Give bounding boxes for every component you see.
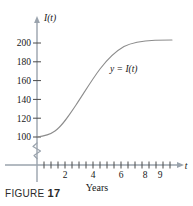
y-axis-name: I(t): [43, 13, 56, 24]
y-tick-label: 180: [17, 57, 32, 67]
y-axis-tick-labels: 200 180 160 140 120 100: [17, 38, 32, 142]
logistic-curve: [37, 40, 172, 137]
x-axis-arrow-icon: [177, 162, 184, 168]
y-tick-label: 140: [17, 95, 32, 105]
x-tick-label: 8: [143, 170, 148, 180]
x-axis: [5, 162, 184, 168]
x-tick-label: 2: [63, 170, 68, 180]
x-tick-label: 4: [91, 170, 96, 180]
x-axis-tick-labels: 2 4 6 8 9: [63, 170, 163, 180]
x-axis-name: t: [185, 161, 188, 171]
graph-canvas: 200 180 160 140 120 100: [0, 0, 193, 206]
y-tick-label: 200: [17, 38, 32, 48]
x-tick-label: 6: [119, 170, 124, 180]
x-axis-title: Years: [86, 182, 108, 193]
figure-container: 200 180 160 140 120 100: [0, 0, 193, 206]
y-axis-arrow-icon: [34, 16, 40, 23]
caption-number: 17: [48, 187, 61, 199]
figure-caption: FIGURE17: [5, 187, 60, 199]
y-tick-label: 100: [17, 132, 32, 142]
caption-word: FIGURE: [5, 188, 45, 199]
y-tick-label: 160: [17, 76, 32, 86]
y-tick-label: 120: [17, 114, 32, 124]
curve-label: y = I(t): [109, 64, 138, 75]
x-tick-label: 9: [158, 170, 163, 180]
